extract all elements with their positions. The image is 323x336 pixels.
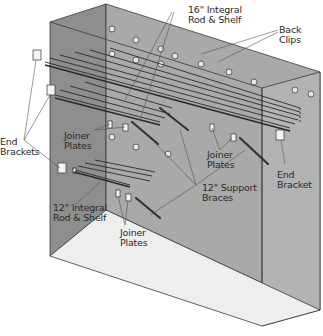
label-joiner-plates-left: Joiner Plates — [64, 131, 92, 151]
label-back-clips: Back Clips — [279, 25, 301, 45]
label-joiner-plates-bottom: Joiner Plates — [120, 228, 148, 248]
label-12in-support-braces: 12" Support Braces — [202, 183, 257, 203]
label-12in-rod-shelf: 12" Integral Rod & Shelf — [53, 203, 107, 223]
label-end-bracket-right: End Bracket — [277, 170, 312, 190]
shelving-diagram: 16" Integral Rod & Shelf Back Clips End … — [0, 0, 323, 336]
label-joiner-plates-right: Joiner Plates — [207, 150, 235, 170]
closet-box-illustration — [0, 0, 323, 336]
label-end-brackets: End Brackets — [0, 137, 40, 157]
label-16in-rod-shelf: 16" Integral Rod & Shelf — [188, 5, 242, 25]
